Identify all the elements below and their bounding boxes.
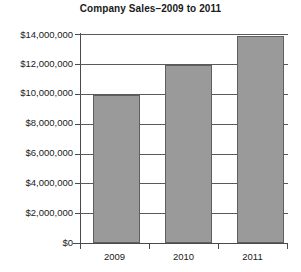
gridline-14000000: [80, 34, 288, 35]
x-axis-line: [73, 243, 288, 244]
y-axis-label-8000000: $8,000,000: [1, 117, 73, 128]
y-axis-labels: $14,000,000 $12,000,000 $10,000,000 $8,0…: [0, 0, 73, 272]
x-tick-2010-end: [218, 244, 219, 249]
bar-chart: Company Sales–2009 to 2011 $14,000,000 $…: [0, 0, 301, 272]
y-axis-label-10000000: $10,000,000: [1, 87, 73, 98]
y-axis-label-14000000: $14,000,000: [1, 29, 73, 40]
x-axis-label-2009: 2009: [87, 251, 142, 262]
plot-area: [80, 34, 288, 243]
x-axis-label-2011: 2011: [225, 251, 280, 262]
y-axis-label-2000000: $2,000,000: [1, 207, 73, 218]
x-tick-2009-end: [149, 244, 150, 249]
y-axis-label-0: $0: [1, 237, 73, 248]
y-axis-label-6000000: $6,000,000: [1, 147, 73, 158]
bar-2010: [165, 65, 212, 243]
x-tick-start: [80, 244, 81, 249]
bar-2009: [93, 95, 140, 243]
x-axis-label-2010: 2010: [156, 251, 211, 262]
y-axis-label-12000000: $12,000,000: [1, 58, 73, 69]
x-tick-2011-end: [287, 244, 288, 249]
y-axis-label-4000000: $4,000,000: [1, 177, 73, 188]
bar-2011: [237, 36, 284, 243]
